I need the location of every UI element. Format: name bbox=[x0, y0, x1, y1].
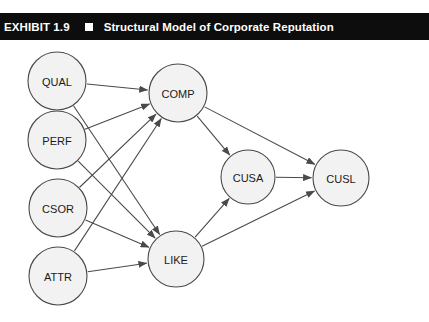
node-label-csor: CSOR bbox=[42, 203, 74, 215]
edge-attr-to-like bbox=[88, 263, 147, 272]
node-label-cusa: CUSA bbox=[233, 172, 264, 184]
node-qual: QUAL bbox=[28, 52, 86, 110]
exhibit-header-bar: EXHIBIT 1.9 Structural Model of Corporat… bbox=[0, 13, 429, 40]
exhibit-page: EXHIBIT 1.9 Structural Model of Corporat… bbox=[0, 0, 429, 322]
edge-like-to-cusa bbox=[195, 198, 229, 237]
exhibit-title: Structural Model of Corporate Reputation bbox=[104, 21, 334, 33]
edge-perf-to-comp bbox=[85, 104, 150, 129]
node-csor: CSOR bbox=[29, 179, 87, 237]
node-label-cusl: CUSL bbox=[326, 173, 355, 185]
node-comp: COMP bbox=[149, 64, 207, 122]
nodes-group: QUALPERFCSORATTRCOMPLIKECUSACUSL bbox=[28, 52, 369, 305]
exhibit-number-label: EXHIBIT 1.9 bbox=[4, 21, 70, 33]
node-label-attr: ATTR bbox=[44, 271, 72, 283]
node-like: LIKE bbox=[148, 231, 204, 287]
edge-qual-to-comp bbox=[87, 84, 148, 90]
node-attr: ATTR bbox=[29, 247, 87, 305]
node-cusl: CUSL bbox=[313, 150, 369, 206]
edge-csor-to-comp bbox=[80, 114, 156, 187]
diagram-canvas: QUALPERFCSORATTRCOMPLIKECUSACUSL bbox=[0, 40, 429, 322]
node-perf: PERF bbox=[28, 111, 86, 169]
node-cusa: CUSA bbox=[221, 150, 275, 204]
edge-comp-to-cusa bbox=[197, 116, 230, 155]
node-label-like: LIKE bbox=[164, 254, 188, 266]
node-label-comp: COMP bbox=[162, 88, 195, 100]
structural-model-diagram: QUALPERFCSORATTRCOMPLIKECUSACUSL bbox=[0, 40, 429, 322]
node-label-perf: PERF bbox=[42, 135, 72, 147]
filled-square-icon bbox=[85, 23, 93, 31]
edge-csor-to-like bbox=[86, 220, 149, 247]
node-label-qual: QUAL bbox=[42, 76, 72, 88]
